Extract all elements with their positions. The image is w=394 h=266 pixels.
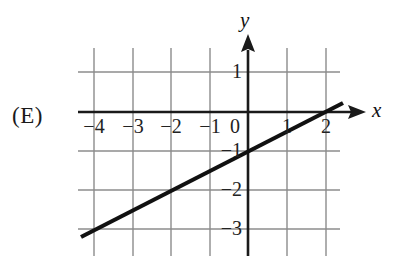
x-axis-name: x (372, 98, 381, 123)
figure-panel: (E) −4 −3 (0, 0, 394, 266)
y-axis (241, 34, 255, 256)
y-axis-name: y (240, 8, 249, 33)
y-tick-label-1: 1 (212, 60, 242, 83)
y-tick-label-neg1: −1 (206, 139, 242, 162)
x-tick-label-2: 2 (310, 115, 342, 138)
y-axis-arrowhead (241, 34, 255, 52)
x-tick-label-neg3: −3 (117, 115, 149, 138)
x-tick-label-neg2: −2 (155, 115, 187, 138)
x-tick-label-neg1: −1 (194, 115, 226, 138)
x-tick-label-1: 1 (271, 115, 303, 138)
x-tick-label-neg4: −4 (78, 115, 110, 138)
y-tick-label-neg2: −2 (206, 178, 242, 201)
origin-label: 0 (226, 115, 244, 138)
y-tick-label-neg3: −3 (206, 217, 242, 240)
